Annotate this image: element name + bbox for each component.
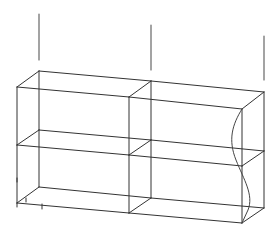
wireframe-box-diagram: [0, 0, 277, 235]
front-edge-top: [129, 97, 242, 109]
front-edge-bot: [129, 213, 242, 223]
back-edge-bot: [39, 187, 151, 198]
depth-edge-bot: [17, 187, 39, 203]
box-edges: [17, 71, 264, 223]
back-edge-top: [39, 71, 151, 81]
load-arrows: [39, 14, 264, 80]
front-edge-mid: [17, 145, 129, 155]
depth-edge-top: [242, 92, 264, 109]
back-edge-mid: [151, 140, 264, 151]
back-edge-top: [151, 81, 264, 92]
back-edge-bot: [151, 198, 264, 208]
depth-edge-mid: [17, 130, 39, 145]
back-edge-mid: [39, 130, 151, 140]
front-edge-mid: [129, 155, 242, 166]
depth-edge-top: [129, 81, 151, 97]
front-edge-bot: [17, 203, 129, 213]
depth-edge-mid: [129, 140, 151, 155]
depth-edge-bot: [129, 198, 151, 213]
depth-edge-mid: [242, 151, 264, 166]
diagram-canvas: [0, 0, 277, 235]
front-edge-top: [17, 87, 129, 97]
depth-edge-top: [17, 71, 39, 87]
